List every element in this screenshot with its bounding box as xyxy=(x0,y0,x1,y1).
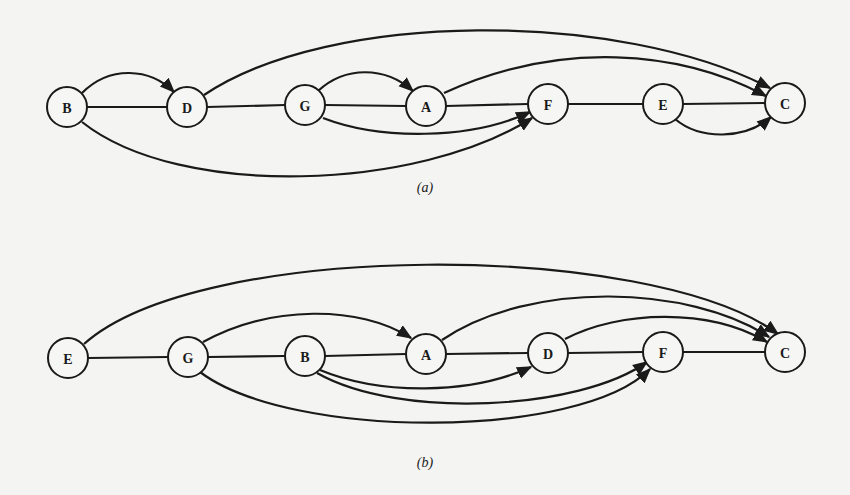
figure: BDGAFEC (a) EGBADFC (b) xyxy=(0,0,850,495)
edge-E-C xyxy=(683,103,765,104)
panel-b-nodes: EGBADFC xyxy=(48,332,805,378)
arc-E-C xyxy=(84,265,778,344)
node-C: C xyxy=(765,332,805,372)
edge-A-D xyxy=(446,353,528,354)
edge-A-F xyxy=(446,104,528,106)
node-label: E xyxy=(63,352,72,367)
edge-G-A xyxy=(325,105,406,106)
edge-E-G xyxy=(88,357,168,358)
node-E: E xyxy=(48,338,88,378)
node-label: E xyxy=(658,98,667,113)
node-label: F xyxy=(659,346,668,361)
node-label: G xyxy=(300,99,311,114)
node-label: G xyxy=(183,351,194,366)
node-G: G xyxy=(285,85,325,125)
node-label: F xyxy=(544,98,553,113)
node-label: B xyxy=(62,101,71,116)
arc-D-C xyxy=(204,30,770,95)
node-label: A xyxy=(421,348,432,363)
node-label: D xyxy=(543,347,553,362)
arc-A-C xyxy=(442,296,769,340)
node-D: D xyxy=(167,87,207,127)
edge-D-F xyxy=(568,352,643,353)
edge-B-A xyxy=(325,354,406,356)
panel-b: EGBADFC (b) xyxy=(48,265,805,471)
node-E: E xyxy=(643,84,683,124)
node-B: B xyxy=(47,87,87,127)
node-F: F xyxy=(528,84,568,124)
panel-b-caption: (b) xyxy=(417,455,434,471)
arc-B-F xyxy=(82,118,532,176)
panel-a: BDGAFEC (a) xyxy=(47,30,805,196)
arc-G-A xyxy=(318,72,413,91)
arc-B-D xyxy=(82,73,174,93)
node-label: D xyxy=(182,101,192,116)
node-D: D xyxy=(528,333,568,373)
arc-E-C xyxy=(675,117,771,135)
graph-diagram: BDGAFEC (a) EGBADFC (b) xyxy=(0,0,850,495)
panel-a-nodes: BDGAFEC xyxy=(47,83,805,127)
node-label: A xyxy=(421,100,432,115)
node-label: C xyxy=(780,346,790,361)
node-label: B xyxy=(300,350,309,365)
arc-A-C xyxy=(444,57,766,96)
node-label: C xyxy=(780,97,790,112)
panel-a-caption: (a) xyxy=(417,180,434,196)
edge-D-G xyxy=(207,105,285,107)
node-B: B xyxy=(285,336,325,376)
node-A: A xyxy=(406,86,446,126)
node-A: A xyxy=(406,334,446,374)
edge-G-B xyxy=(208,356,285,357)
node-G: G xyxy=(168,337,208,377)
arc-G-F xyxy=(200,369,650,423)
node-C: C xyxy=(765,83,805,123)
node-F: F xyxy=(643,332,683,372)
